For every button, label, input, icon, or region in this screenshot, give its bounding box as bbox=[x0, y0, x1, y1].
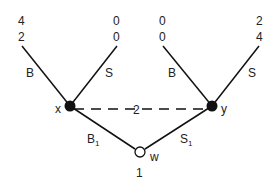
edge-w-B1-label: B1 bbox=[87, 132, 100, 148]
edge-x-S-label: S bbox=[105, 66, 113, 80]
payoff-2-bottom: 0 bbox=[113, 30, 120, 44]
player-1-label: 1 bbox=[136, 166, 143, 180]
game-tree-diagram: x y w 1 B S B S 2 B1 S1 4 2 0 0 0 0 2 4 bbox=[0, 0, 280, 181]
information-set-label: 2 bbox=[133, 103, 140, 117]
payoff-1-top: 4 bbox=[18, 14, 25, 28]
edge-y-S-label: S bbox=[248, 66, 256, 80]
payoff-1-bottom: 2 bbox=[18, 30, 25, 44]
node-y-label: y bbox=[221, 102, 227, 116]
node-w-label: w bbox=[149, 150, 159, 164]
edge-y-B-label: B bbox=[168, 66, 176, 80]
edge-w-B1 bbox=[70, 106, 135, 149]
payoff-4-bottom: 4 bbox=[256, 30, 263, 44]
node-w bbox=[135, 147, 145, 157]
payoff-4-top: 2 bbox=[256, 14, 263, 28]
edge-w-S1 bbox=[145, 106, 212, 149]
node-x bbox=[65, 101, 76, 112]
payoff-3-top: 0 bbox=[159, 14, 166, 28]
edge-w-S1-label: S1 bbox=[180, 132, 193, 148]
payoff-2-top: 0 bbox=[113, 14, 120, 28]
payoff-3-bottom: 0 bbox=[159, 30, 166, 44]
node-y bbox=[207, 101, 218, 112]
node-x-label: x bbox=[55, 102, 61, 116]
edge-x-B-label: B bbox=[26, 66, 34, 80]
